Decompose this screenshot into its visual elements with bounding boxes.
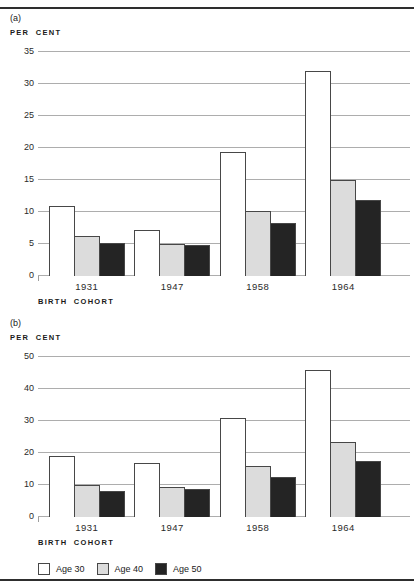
bar-group-1958 [215,357,301,517]
bar-group-1964 [301,52,387,276]
bottom-rule [0,579,414,581]
x-tick-label-1931: 1931 [44,281,130,293]
bar-age-50-1947 [184,489,210,517]
y-tick-label-30: 30 [2,415,34,426]
y-tick-label-10: 10 [2,479,34,490]
bar-group-1947 [130,357,216,517]
x-axis-title-a: BIRTH COHORT [38,297,414,306]
legend-label-age-50: Age 50 [173,563,202,575]
bar-age-40-1947 [159,487,185,517]
bars-container [44,357,386,517]
bar-group-1964 [301,357,387,517]
bar-age-40-1947 [159,244,185,276]
x-tick-labels-a: 1931194719581964 [44,281,386,293]
y-tick-label-40: 40 [2,383,34,394]
legend-label-age-30: Age 30 [56,563,85,575]
legend: Age 30Age 40Age 50 [38,563,214,575]
bar-age-40-1931 [74,236,100,276]
x-tick-label-1947: 1947 [130,281,216,293]
x-tick-label-1958: 1958 [215,522,301,534]
bar-group-1931 [44,52,130,276]
bar-age-30-1931 [49,456,75,517]
y-tick-label-20: 20 [2,447,34,458]
bar-age-30-1931 [49,206,75,276]
y-tick-label-0: 0 [2,270,34,281]
bar-age-50-1931 [99,491,125,517]
y-tick-label-30: 30 [2,78,34,89]
bar-age-50-1958 [270,223,296,276]
legend-swatch-age-30 [38,563,50,575]
x-tick-label-1958: 1958 [215,281,301,293]
bar-age-50-1964 [355,461,381,517]
panel-b-label: (b) [10,318,414,329]
legend-item-age-30: Age 30 [38,563,85,575]
bars-container [44,52,386,276]
legend-label-age-40: Age 40 [115,563,144,575]
bar-group-1931 [44,357,130,517]
bar-group-1947 [130,52,216,276]
x-tick-label-1964: 1964 [301,522,387,534]
y-tick-label-5: 5 [2,238,34,249]
panel-a-label: (a) [10,13,414,24]
bar-age-50-1958 [270,477,296,517]
y-tick-label-20: 20 [2,142,34,153]
figure-page: (a) PER CENT 05101520253035 193119471958… [0,0,414,588]
bar-age-40-1964 [330,180,356,276]
plot-area-a: 05101520253035 [38,52,410,276]
bar-group-1958 [215,52,301,276]
y-tick-label-15: 15 [2,174,34,185]
y-tick-label-10: 10 [2,206,34,217]
bar-age-40-1958 [245,211,271,276]
x-tick-label-1964: 1964 [301,281,387,293]
chart-panel-a: (a) PER CENT 05101520253035 193119471958… [0,13,414,306]
y-tick-label-50: 50 [2,351,34,362]
x-tick-labels-b: 1931194719581964 [44,522,386,534]
bar-age-40-1931 [74,485,100,517]
top-rule [0,7,414,9]
bar-age-40-1964 [330,442,356,517]
bar-age-30-1958 [220,152,246,276]
bar-age-30-1964 [305,370,331,517]
x-tick-label-1947: 1947 [130,522,216,534]
chart-panel-b: (b) PER CENT 01020304050 193119471958196… [0,318,414,547]
plot-area-b: 01020304050 [38,357,410,517]
legend-item-age-40: Age 40 [97,563,144,575]
bar-age-30-1947 [134,463,160,517]
bar-age-40-1958 [245,466,271,517]
bar-age-50-1947 [184,245,210,276]
y-tick-label-25: 25 [2,110,34,121]
legend-item-age-50: Age 50 [155,563,202,575]
y-axis-title-a: PER CENT [10,28,414,37]
x-axis-title-b: BIRTH COHORT [38,538,414,547]
bar-age-30-1964 [305,71,331,276]
y-axis-title-b: PER CENT [10,333,414,342]
bar-age-30-1958 [220,418,246,517]
bar-age-30-1947 [134,230,160,276]
bar-age-50-1931 [99,243,125,276]
y-tick-label-35: 35 [2,46,34,57]
x-tick-label-1931: 1931 [44,522,130,534]
y-tick-label-0: 0 [2,511,34,522]
legend-swatch-age-50 [155,563,167,575]
bar-age-50-1964 [355,200,381,276]
legend-swatch-age-40 [97,563,109,575]
